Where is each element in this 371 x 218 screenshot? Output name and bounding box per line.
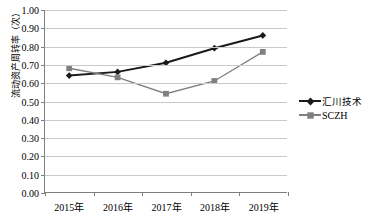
- y-axis-title: 流动资产周转率（次）: [9, 0, 22, 128]
- y-axis-tick-label: 0.30: [22, 133, 40, 144]
- gridline: [45, 65, 287, 66]
- legend-item-0[interactable]: 汇川技术: [299, 94, 362, 108]
- plot-area: 1.000.900.800.700.600.500.400.300.200.10…: [44, 10, 287, 193]
- gridline: [45, 120, 287, 121]
- y-axis-tick: [41, 138, 45, 139]
- x-axis-tick: [191, 192, 192, 196]
- x-axis-tick: [239, 192, 240, 196]
- gridline: [45, 28, 287, 29]
- y-axis-tick: [41, 65, 45, 66]
- x-axis-tick: [45, 192, 46, 196]
- data-point: [114, 68, 121, 75]
- legend-marker-square-icon: [299, 110, 321, 120]
- gridline: [45, 175, 287, 176]
- gridline: [45, 138, 287, 139]
- data-point: [115, 74, 121, 80]
- gridline: [45, 156, 287, 157]
- legend: 汇川技术 SCZH: [299, 94, 362, 122]
- y-axis-tick-label: 1.00: [22, 5, 40, 16]
- gridline: [45, 47, 287, 48]
- legend-label-0: 汇川技术: [321, 94, 362, 108]
- y-axis-tick: [41, 83, 45, 84]
- y-axis-tick-label: 0.80: [22, 41, 40, 52]
- y-axis-tick: [41, 156, 45, 157]
- y-axis-tick-label: 0.50: [22, 96, 40, 107]
- line-chart: 流动资产周转率（次） 1.000.900.800.700.600.500.400…: [0, 0, 371, 218]
- y-axis-tick-label: 0.60: [22, 78, 40, 89]
- data-point: [163, 91, 169, 97]
- figure-caption: [0, 211, 371, 218]
- y-axis-tick-label: 0.20: [22, 151, 40, 162]
- legend-item-1[interactable]: SCZH: [299, 108, 362, 122]
- y-axis-tick: [41, 120, 45, 121]
- x-axis-tick: [142, 192, 143, 196]
- gridline: [45, 10, 287, 11]
- y-axis-tick: [41, 102, 45, 103]
- y-axis-tick: [41, 28, 45, 29]
- y-axis-tick-label: 0.00: [22, 188, 40, 199]
- x-axis-tick: [94, 192, 95, 196]
- y-axis-tick-label: 0.10: [22, 169, 40, 180]
- data-point: [66, 72, 73, 79]
- data-point: [259, 32, 266, 39]
- y-axis-tick: [41, 175, 45, 176]
- y-axis-tick: [41, 47, 45, 48]
- data-point: [66, 65, 72, 71]
- legend-label-1: SCZH: [321, 110, 348, 121]
- y-axis-tick-label: 0.70: [22, 59, 40, 70]
- gridline: [45, 102, 287, 103]
- y-axis-tick: [41, 10, 45, 11]
- y-axis-tick-label: 0.90: [22, 23, 40, 34]
- y-axis-tick-label: 0.40: [22, 114, 40, 125]
- x-axis-tick: [288, 192, 289, 196]
- gridline: [45, 83, 287, 84]
- data-point: [260, 49, 266, 55]
- legend-marker-diamond-icon: [299, 96, 321, 106]
